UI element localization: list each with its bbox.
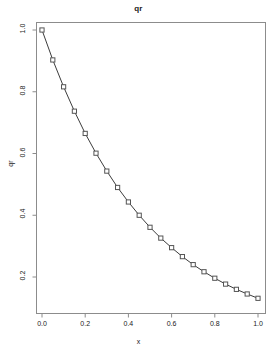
chart-plot-area: qr x qr 0.00.20.40.60.81.0 0.20.40.60.81… xyxy=(0,0,277,354)
x-axis-tick-label: 0.0 xyxy=(30,320,54,327)
data-point-marker xyxy=(159,236,163,240)
data-point-marker xyxy=(105,169,109,173)
plot-box xyxy=(37,23,266,314)
data-point-marker xyxy=(116,185,120,189)
x-axis-tick-label: 0.2 xyxy=(73,320,97,327)
chart-canvas xyxy=(0,0,277,354)
data-point-marker xyxy=(126,200,130,204)
data-series-line xyxy=(42,30,258,298)
x-axis-tick-label: 0.4 xyxy=(116,320,140,327)
data-point-marker xyxy=(83,131,87,135)
data-point-marker xyxy=(72,109,76,113)
y-axis-tick-label: 1.0 xyxy=(19,17,26,41)
data-point-marker xyxy=(234,287,238,291)
data-point-marker xyxy=(170,246,174,250)
data-point-marker xyxy=(224,282,228,286)
data-point-marker xyxy=(51,58,55,62)
y-axis-tick-label: 0.8 xyxy=(19,78,26,102)
data-point-marker xyxy=(148,225,152,229)
x-axis-tick-label: 0.6 xyxy=(160,320,184,327)
data-point-marker xyxy=(180,255,184,259)
y-axis-tick-label: 0.6 xyxy=(19,140,26,164)
x-axis-tick-label: 1.0 xyxy=(246,320,270,327)
data-point-marker xyxy=(137,213,141,217)
x-axis-tick-label: 0.8 xyxy=(203,320,227,327)
data-point-marker xyxy=(94,151,98,155)
data-point-marker xyxy=(245,292,249,296)
data-point-marker xyxy=(191,263,195,267)
data-point-marker xyxy=(62,85,66,89)
y-axis-tick-label: 0.2 xyxy=(19,264,26,288)
x-axis-label: x xyxy=(0,338,277,345)
y-axis-label: qr xyxy=(7,144,14,184)
data-point-marker xyxy=(202,270,206,274)
data-point-marker xyxy=(256,296,260,300)
y-axis-tick-label: 0.4 xyxy=(19,202,26,226)
data-point-marker xyxy=(213,276,217,280)
data-point-marker xyxy=(40,28,44,32)
